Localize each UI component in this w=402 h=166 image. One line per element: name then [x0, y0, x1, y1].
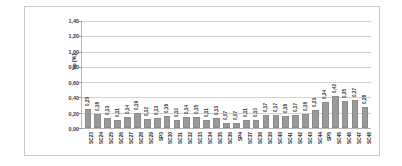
bar-item[interactable]: 0,16 — [281, 21, 291, 128]
bar-value-label: 0,10 — [253, 108, 258, 117]
x-axis-tick-slot: SC29 — [142, 131, 152, 166]
bar-item[interactable]: 0,37 — [350, 21, 360, 128]
bar-value-label: 0,11 — [204, 108, 209, 117]
bar-value-label: 0,17 — [263, 103, 268, 112]
x-axis-tick-slot: SC43 — [301, 131, 311, 166]
bar-rect[interactable] — [213, 118, 220, 128]
x-axis-tick-slot: SC24 — [92, 131, 102, 166]
bar-value-label: 0,42 — [332, 84, 337, 93]
bar-rect[interactable] — [144, 119, 151, 128]
bar-item[interactable]: 0,34 — [320, 21, 330, 128]
bar-rect[interactable] — [263, 115, 270, 128]
x-axis-tick-slot: SC36 — [221, 131, 231, 166]
y-axis-tick-label: 1,00 — [55, 49, 79, 55]
bar-rect[interactable] — [322, 102, 329, 128]
x-axis-tick-slot: SC23 — [82, 131, 92, 166]
y-axis-tick-label: 0,40 — [55, 95, 79, 101]
y-axis-tick-labels: 1,401,201,000,800,600,400,200,00 — [55, 21, 79, 129]
bar-item[interactable]: 0,28 — [360, 21, 370, 128]
bar-rect[interactable] — [223, 123, 230, 128]
x-axis-tick-slot: SC46 — [340, 131, 350, 166]
x-axis-tick-slot: SC28 — [132, 131, 142, 166]
bar-rect[interactable] — [273, 115, 280, 128]
bar-rect[interactable] — [243, 120, 250, 128]
bar-rect[interactable] — [85, 109, 92, 128]
bar-rect[interactable] — [253, 120, 260, 128]
bar-value-label: 0,11 — [243, 108, 248, 117]
bar-value-label: 0,16 — [283, 104, 288, 113]
bar-item[interactable]: 0,11 — [113, 21, 123, 128]
bar-item[interactable]: 0,17 — [291, 21, 301, 128]
bar-value-label: 0,23 — [313, 98, 318, 107]
bar-value-label: 0,13 — [214, 106, 219, 115]
y-axis-tick-label: 1,20 — [55, 33, 79, 39]
bar-rect[interactable] — [193, 117, 200, 128]
x-axis-tick-slot: SC48 — [360, 131, 370, 166]
bar-rect[interactable] — [94, 114, 101, 128]
bar-item[interactable]: 0,16 — [162, 21, 172, 128]
bar-value-label: 0,19 — [135, 102, 140, 111]
bar-value-label: 0,13 — [105, 106, 110, 115]
bar-item[interactable]: 0,23 — [310, 21, 320, 128]
bar-item[interactable]: 0,19 — [132, 21, 142, 128]
bar-item[interactable]: 0,17 — [261, 21, 271, 128]
bar-rect[interactable] — [114, 120, 121, 128]
bar-value-label: 0,14 — [184, 105, 189, 114]
x-axis-tick-slot: SC39 — [261, 131, 271, 166]
x-axis-tick-slot: SC32 — [181, 131, 191, 166]
bar-item[interactable]: 0,07 — [221, 21, 231, 128]
bar-item[interactable]: 0,15 — [192, 21, 202, 128]
bar-rect[interactable] — [342, 101, 349, 128]
bar-item[interactable]: 0,42 — [330, 21, 340, 128]
x-axis-tick-slot: SC44 — [311, 131, 321, 166]
bar-item[interactable]: 0,14 — [123, 21, 133, 128]
bar-rect[interactable] — [352, 100, 359, 128]
bar-value-label: 0,28 — [362, 95, 367, 104]
y-axis-tick-label: 0,60 — [55, 80, 79, 86]
bar-rect[interactable] — [282, 116, 289, 128]
bar-item[interactable]: 0,14 — [182, 21, 192, 128]
bar-rect[interactable] — [124, 117, 131, 128]
bar-item[interactable]: 0,13 — [103, 21, 113, 128]
x-axis-tick-slot: SP4 — [231, 131, 241, 166]
bar-item[interactable]: 0,07 — [231, 21, 241, 128]
bar-rect[interactable] — [332, 96, 339, 128]
bar-item[interactable]: 0,12 — [142, 21, 152, 128]
y-axis-tick-label: 0,00 — [55, 126, 79, 132]
bar-rect[interactable] — [134, 113, 141, 128]
bar-rect[interactable] — [104, 118, 111, 128]
bar-value-label: 0,10 — [174, 108, 179, 117]
bar-value-label: 0,35 — [342, 89, 347, 98]
bar-rect[interactable] — [154, 118, 161, 128]
bar-item[interactable]: 0,35 — [340, 21, 350, 128]
bar-item[interactable]: 0,13 — [152, 21, 162, 128]
x-axis-tick-labels: SC23SC24SC25SC26SC27SC28SC29SP3SC30SC31S… — [81, 131, 371, 166]
bar-item[interactable]: 0,10 — [172, 21, 182, 128]
plot-area: 0,250,180,130,110,140,190,120,130,160,10… — [81, 21, 371, 129]
bar-item[interactable]: 0,25 — [83, 21, 93, 128]
x-axis-tick-slot: SC26 — [112, 131, 122, 166]
bar-item[interactable]: 0,17 — [271, 21, 281, 128]
y-axis-tick-label: 1,40 — [55, 18, 79, 24]
bar-item[interactable]: 0,18 — [301, 21, 311, 128]
x-axis-tick-slot: SC42 — [291, 131, 301, 166]
x-axis-tick-slot: SC30 — [162, 131, 172, 166]
x-axis-tick-slot: SC40 — [271, 131, 281, 166]
bar-value-label: 0,37 — [352, 88, 357, 97]
bar-rect[interactable] — [302, 114, 309, 128]
bar-rect[interactable] — [233, 123, 240, 128]
bar-rect[interactable] — [164, 116, 171, 128]
bar-item[interactable]: 0,13 — [212, 21, 222, 128]
bar-rect[interactable] — [183, 117, 190, 128]
x-axis-tick-slot: SC47 — [350, 131, 360, 166]
bar-item[interactable]: 0,10 — [251, 21, 261, 128]
bar-value-label: 0,12 — [144, 107, 149, 116]
bar-item[interactable]: 0,18 — [93, 21, 103, 128]
bar-rect[interactable] — [362, 107, 369, 128]
bar-rect[interactable] — [312, 110, 319, 128]
bar-rect[interactable] — [174, 120, 181, 128]
bar-rect[interactable] — [292, 115, 299, 128]
bar-item[interactable]: 0,11 — [241, 21, 251, 128]
bar-rect[interactable] — [203, 120, 210, 128]
bar-item[interactable]: 0,11 — [202, 21, 212, 128]
